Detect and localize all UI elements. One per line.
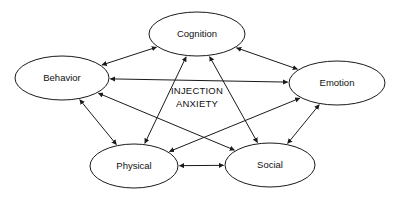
node-cognition[interactable]: Cognition [149,12,245,56]
node-label-social: Social [257,159,283,170]
center-label-line1: INJECTION [171,85,223,96]
node-behavior[interactable]: Behavior [15,56,109,100]
edge-cognition-emotion [237,48,298,69]
center-label-group: INJECTION ANXIETY [171,85,223,109]
center-label-line2: ANXIETY [176,98,219,109]
injection-anxiety-diagram: CognitionBehaviorEmotionPhysicalSocial I… [0,0,402,201]
node-label-physical: Physical [116,160,151,171]
node-label-cognition: Cognition [177,28,217,39]
node-emotion[interactable]: Emotion [289,61,385,105]
node-label-emotion: Emotion [320,77,355,88]
node-social[interactable]: Social [225,143,315,187]
node-physical[interactable]: Physical [90,144,178,188]
node-label-behavior: Behavior [43,72,81,83]
edge-behavior-emotion [110,79,287,82]
edge-behavior-physical [80,100,117,145]
edge-behavior-cognition [102,47,156,65]
diagram-canvas: CognitionBehaviorEmotionPhysicalSocial I… [0,0,402,201]
edge-emotion-social [288,105,320,144]
